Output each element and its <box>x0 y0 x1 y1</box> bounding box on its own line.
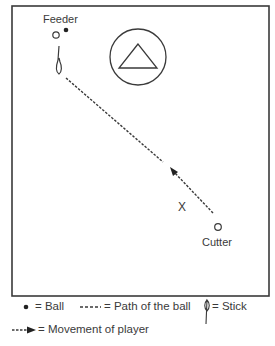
legend-ball-text: = Ball <box>35 300 64 312</box>
feeder-label: Feeder <box>43 13 78 25</box>
drill-diagram <box>0 0 275 346</box>
cutter-player-icon <box>215 224 222 231</box>
stick-icon <box>57 46 62 74</box>
legend-movement-arrowhead-icon <box>27 327 36 334</box>
legend-path-text: = Path of the ball <box>104 300 191 312</box>
defender-label: X <box>178 200 186 214</box>
ball-icon <box>64 28 69 33</box>
cutter-label: Cutter <box>202 236 232 248</box>
ball-path-line <box>66 78 163 162</box>
legend-movement-text: = Movement of player <box>38 323 149 335</box>
goal-triangle-icon <box>119 44 157 68</box>
feeder-player-icon <box>53 32 59 38</box>
legend-stick-icon <box>205 300 210 324</box>
goal-crease-icon <box>110 29 166 85</box>
legend-ball-icon <box>24 305 29 310</box>
field-boundary <box>12 6 269 296</box>
legend-stick-text: = Stick <box>212 300 247 312</box>
